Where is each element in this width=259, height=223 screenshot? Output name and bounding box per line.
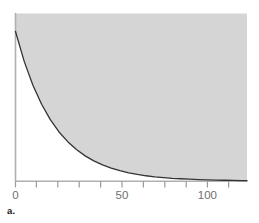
shaded-area-above-curve xyxy=(0,14,247,182)
x-tick-label-50: 50 xyxy=(116,189,129,201)
x-tick-label-100: 100 xyxy=(198,189,217,201)
decay-curve-chart: 0 50 100 xyxy=(0,0,259,223)
x-axis-minor-ticks xyxy=(36,182,228,188)
figure-panel: 0 50 100 a. xyxy=(0,0,259,223)
x-tick-label-0: 0 xyxy=(12,189,18,201)
panel-label: a. xyxy=(7,205,15,216)
x-axis-major-ticks xyxy=(16,182,208,188)
